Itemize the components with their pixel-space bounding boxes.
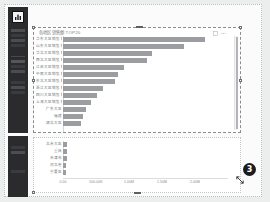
bar[interactable] — [63, 72, 118, 77]
bar[interactable] — [63, 65, 124, 70]
app-screen: 各地区销售额 TOP20 华东大区销售额山东大区销售额华北大区销售额西北大区销售… — [0, 0, 270, 202]
bar-chart-top: 华东大区销售额山东大区销售额华北大区销售额西北大区销售额江苏大区销售额中南大区销… — [34, 36, 228, 132]
table-row[interactable] — [63, 155, 226, 162]
bar[interactable] — [63, 170, 66, 175]
table-row[interactable] — [63, 36, 226, 43]
bar[interactable] — [63, 114, 83, 119]
chart-row-label: 华东大区销售额 — [36, 36, 62, 43]
app-sidebar[interactable] — [8, 7, 28, 133]
bar[interactable] — [63, 58, 147, 63]
bars-column-bottom — [63, 141, 226, 175]
bar[interactable] — [63, 79, 115, 84]
category-label: 北京大区 — [36, 141, 62, 148]
bar[interactable] — [63, 142, 67, 147]
table-row[interactable] — [63, 169, 226, 176]
sidebar-item-settings[interactable] — [11, 81, 25, 96]
vertical-scrollbar[interactable] — [234, 36, 238, 130]
category-labels-column-bottom: 北京大区重庆天津市河北省宁夏区 — [36, 141, 62, 176]
resize-handle-top-right[interactable] — [239, 26, 242, 29]
list-menu-icon — [11, 65, 25, 68]
category-label: 四川大区销售额 — [36, 92, 62, 99]
grid-menu-icon — [11, 34, 25, 37]
annotation-badge-3: 3 — [243, 163, 256, 176]
resize-handle-bottom-center[interactable] — [134, 192, 141, 194]
table-row[interactable] — [63, 50, 226, 57]
chart-panel-top[interactable]: 各地区销售额 TOP20 华东大区销售额山东大区销售额华北大区销售额西北大区销售… — [33, 27, 241, 133]
category-label: 东北大区销售额 — [36, 78, 62, 85]
x-axis-tick-label: 500.00K — [89, 180, 102, 184]
table-row[interactable] — [63, 92, 226, 99]
table-row[interactable] — [63, 78, 226, 85]
chart-row-label: 宁夏区 — [36, 169, 62, 176]
chart-row-label: 河北省 — [36, 162, 62, 169]
chart-row-label: 广东大区 — [36, 106, 62, 113]
sidebar-item-grid-2[interactable] — [11, 53, 25, 75]
x-axis-tick-label: 2.00M — [190, 180, 200, 184]
chart-row-label: 湖北大区 — [36, 120, 62, 127]
table-row[interactable] — [63, 43, 226, 50]
table-row[interactable] — [63, 162, 226, 169]
chart-row-label: 华北大区销售额 — [36, 50, 62, 57]
bar[interactable] — [63, 100, 91, 105]
table-row[interactable] — [63, 148, 226, 155]
grid-menu-icon — [11, 44, 25, 47]
category-label: 上海大区销售额 — [36, 99, 62, 106]
grid-menu-icon — [11, 151, 25, 154]
x-axis-tick-label: 0.00 — [60, 180, 67, 184]
sidebar-item-grid-1[interactable] — [11, 29, 25, 49]
bar[interactable] — [63, 121, 81, 126]
category-labels-column: 华东大区销售额山东大区销售额华北大区销售额西北大区销售额江苏大区销售额中南大区销… — [36, 36, 62, 127]
resize-handle-bottom-left[interactable] — [32, 191, 35, 194]
bar[interactable] — [63, 93, 97, 98]
table-row[interactable] — [63, 64, 226, 71]
chart-row-label: 浙江大区销售额 — [36, 85, 62, 92]
category-label: 江苏大区销售额 — [36, 64, 62, 71]
chart-row-label: 山东大区销售额 — [36, 43, 62, 50]
scrollbar-thumb[interactable] — [236, 37, 238, 129]
table-row[interactable] — [63, 120, 226, 127]
bar[interactable] — [63, 107, 86, 112]
category-label: 广东大区 — [36, 106, 62, 113]
chart-row-label: 西北大区销售额 — [36, 57, 62, 64]
chart-row-label: 福建 — [36, 113, 62, 120]
category-label: 西北大区销售额 — [36, 57, 62, 64]
settings-menu-icon — [11, 86, 25, 89]
chart-panel-bottom[interactable]: 北京大区重庆天津市河北省宁夏区 0.00500.00K1.00M1.50M2.0… — [33, 137, 241, 193]
table-row[interactable] — [63, 71, 226, 78]
bars-column — [63, 36, 226, 132]
x-axis-tick-label: 1.50M — [157, 180, 167, 184]
bar[interactable] — [63, 44, 184, 49]
table-row[interactable] — [63, 85, 226, 92]
chart-row-label: 中南大区销售额 — [36, 71, 62, 78]
table-row[interactable] — [63, 106, 226, 113]
grid-menu-icon — [11, 29, 25, 32]
bar[interactable] — [63, 163, 66, 168]
app-sidebar-lower[interactable] — [8, 136, 28, 197]
grid-menu-icon — [11, 146, 25, 149]
category-label: 山东大区销售额 — [36, 43, 62, 50]
chart-row-label: 东北大区销售额 — [36, 78, 62, 85]
sidebar-item-lower-2[interactable] — [11, 170, 25, 175]
resize-handle-top-left[interactable] — [32, 26, 35, 29]
bar[interactable] — [63, 149, 67, 154]
bar[interactable] — [63, 51, 152, 56]
category-label: 华东大区销售额 — [36, 36, 62, 43]
resize-handle-middle-right[interactable] — [239, 79, 242, 82]
chart-row-label: 天津市 — [36, 155, 62, 162]
table-row[interactable] — [63, 57, 226, 64]
table-row[interactable] — [63, 113, 226, 120]
category-label: 河北省 — [36, 162, 62, 169]
sidebar-item-lower[interactable] — [11, 146, 25, 156]
table-row[interactable] — [63, 141, 226, 148]
resize-handle-middle-left[interactable] — [32, 79, 35, 82]
chart-row-label: 北京大区 — [36, 141, 62, 148]
bar-chart-bottom: 北京大区重庆天津市河北省宁夏区 — [34, 141, 228, 175]
category-label: 中南大区销售额 — [36, 71, 62, 78]
category-label: 宁夏区 — [36, 169, 62, 176]
bar[interactable] — [63, 156, 67, 161]
bar[interactable] — [63, 37, 205, 42]
resize-handle-top-center[interactable] — [136, 26, 143, 28]
bar[interactable] — [63, 86, 103, 91]
bar-chart-logo-icon — [12, 11, 24, 23]
table-row[interactable] — [63, 99, 226, 106]
